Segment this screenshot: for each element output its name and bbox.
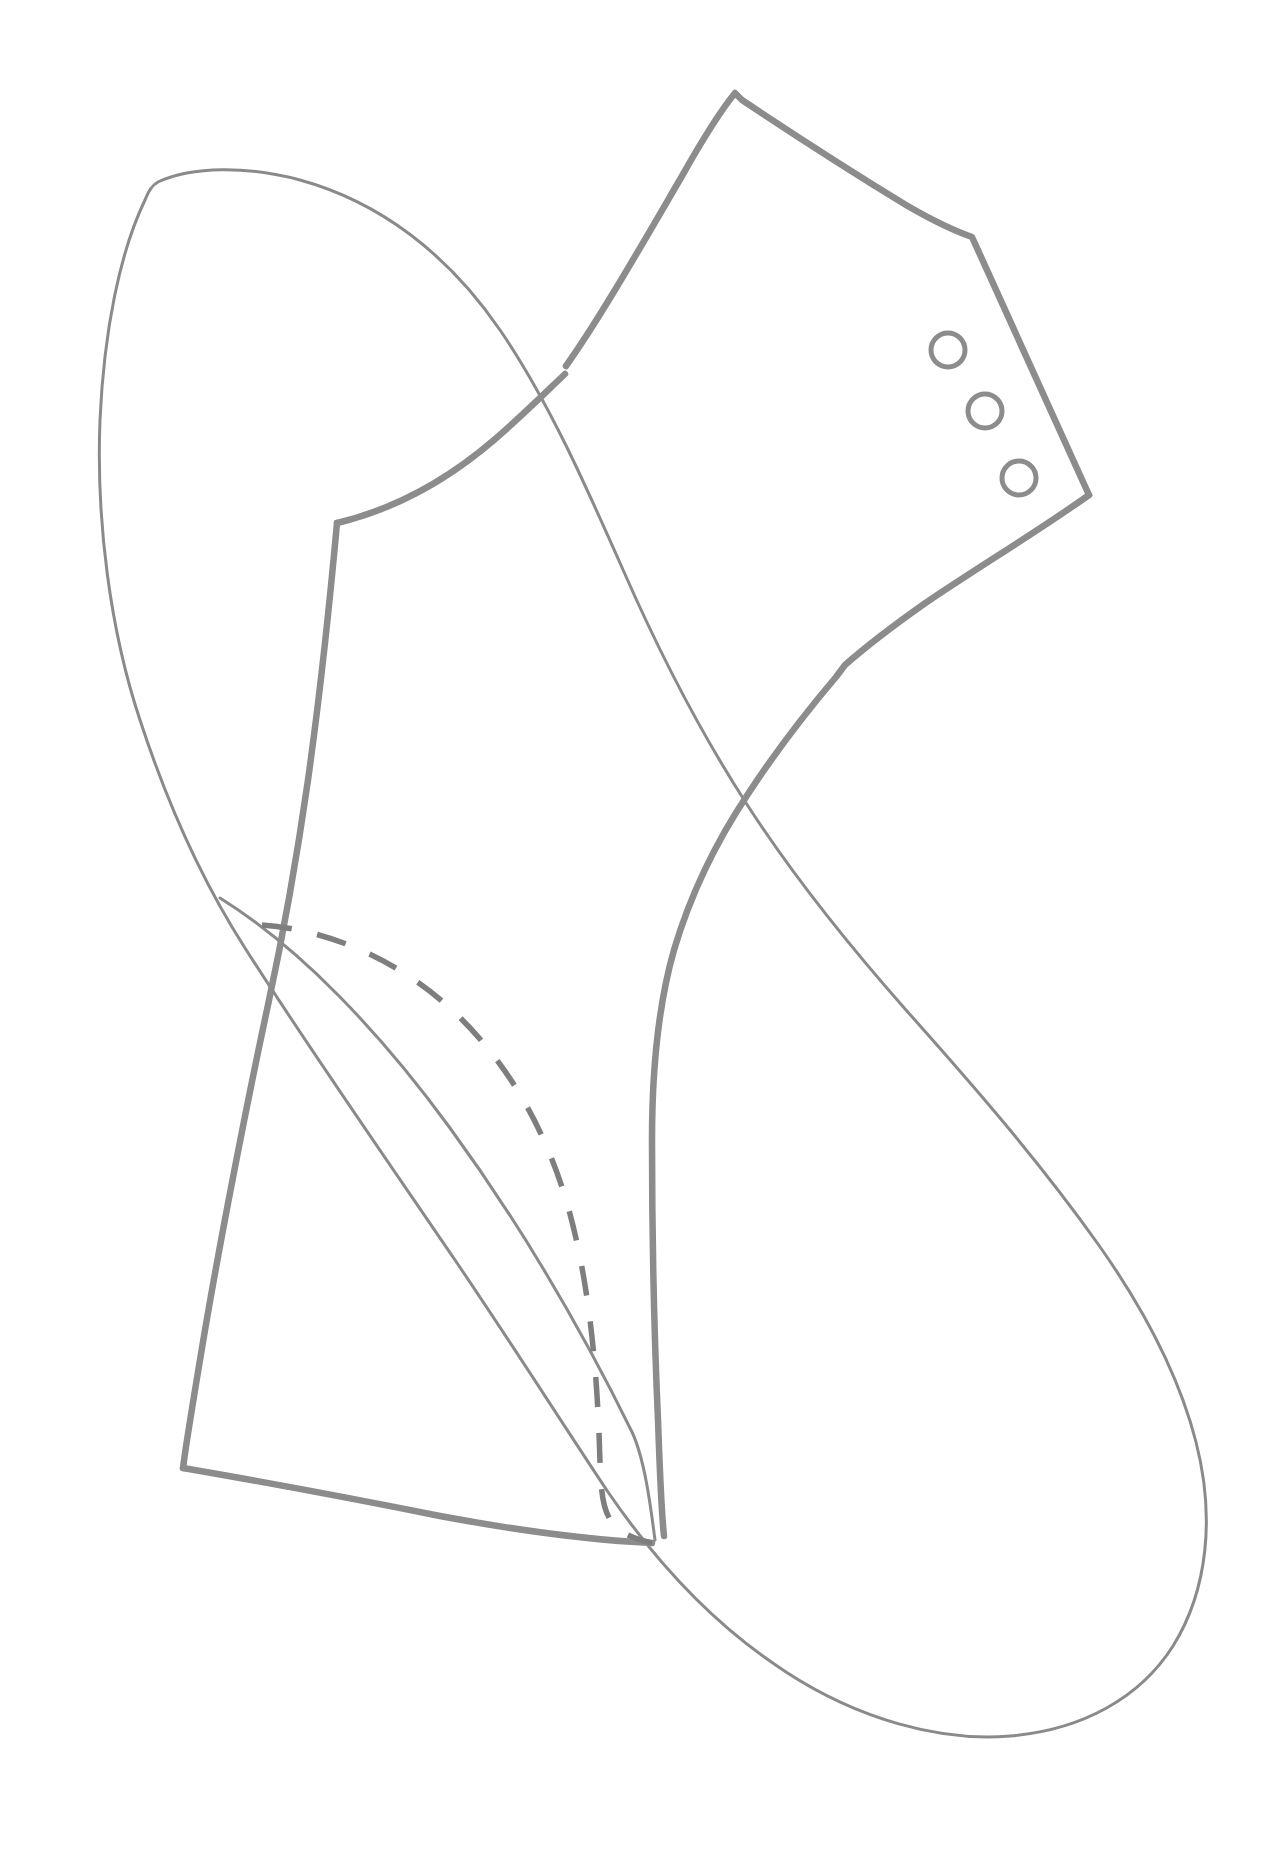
drawing-canvas [0,0,1269,1857]
pattern-drawing [0,0,1269,1857]
paper-background [0,0,1269,1857]
